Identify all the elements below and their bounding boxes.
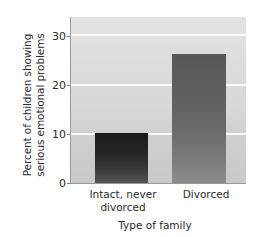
plot-area xyxy=(71,17,246,183)
y-tick-label-20: 20 xyxy=(42,80,66,91)
x-axis-title: Type of family xyxy=(60,219,250,231)
x-tick-label-intact-never-divorced: Intact, never divorced xyxy=(74,188,172,213)
bar-chart-figure: Percent of children showing serious emot… xyxy=(0,0,264,237)
x-tick-label-1-line-1: Divorced xyxy=(183,188,230,200)
y-tick-label-30: 30 xyxy=(42,31,66,42)
y-tick-label-0: 0 xyxy=(42,178,66,189)
y-tick-label-10: 10 xyxy=(42,129,66,140)
bar-intact-never-divorced[interactable] xyxy=(95,133,148,183)
bar-divorced[interactable] xyxy=(172,54,226,183)
y-axis-tick-labels: 0 10 20 30 xyxy=(42,0,66,237)
x-axis-line xyxy=(70,183,246,184)
gridline-30 xyxy=(71,34,246,36)
y-axis-title-line-1: Percent of children showing xyxy=(21,34,33,176)
x-tick-label-0-line-1: Intact, never xyxy=(90,188,157,200)
x-tick-label-divorced: Divorced xyxy=(166,188,246,201)
x-tick-label-0-line-2: divorced xyxy=(100,201,145,213)
